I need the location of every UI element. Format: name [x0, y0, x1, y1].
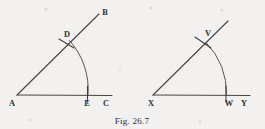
point-label-b: B: [102, 8, 108, 17]
ray-xy: [153, 95, 250, 96]
arc-de: [70, 41, 89, 96]
scan-noise: [29, 7, 224, 124]
figure-caption: Fig. 26.7: [115, 116, 150, 126]
diagram-copied-angle-yxv: X V W Y: [148, 21, 250, 108]
ray-xv: [153, 21, 228, 95]
arc-vw: [206, 43, 227, 96]
geometry-figure-canvas: A B C D E X V W Y Fig. 26.7: [0, 0, 265, 129]
point-label-v: V: [205, 29, 211, 38]
point-label-x: X: [148, 99, 154, 108]
point-label-a: A: [9, 99, 15, 108]
point-label-w: W: [225, 99, 234, 108]
point-label-y: Y: [241, 99, 247, 108]
point-label-e: E: [84, 99, 90, 108]
point-label-d: D: [64, 30, 70, 39]
point-label-c: C: [103, 99, 109, 108]
figure-container: A B C D E X V W Y Fig. 26.7: [0, 0, 265, 129]
ray-ac: [17, 95, 112, 96]
diagram-original-angle-bac: A B C D E: [9, 8, 112, 108]
ray-ab: [17, 14, 99, 95]
